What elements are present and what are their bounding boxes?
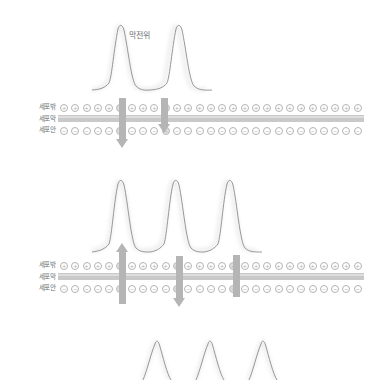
ion-charge-sign: + bbox=[107, 105, 111, 110]
ion-charge-sign: + bbox=[164, 263, 168, 268]
ion-charge-sign: + bbox=[265, 263, 269, 268]
ion-charge-sign: + bbox=[84, 263, 88, 268]
ion-negative: − bbox=[162, 285, 170, 293]
ion-charge-sign: − bbox=[344, 128, 348, 133]
ion-charge-sign: + bbox=[141, 263, 145, 268]
ion-charge-sign: − bbox=[344, 286, 348, 291]
ion-charge-sign: − bbox=[164, 286, 168, 291]
ion-charge-sign: + bbox=[73, 105, 77, 110]
ion-charge-sign: + bbox=[243, 263, 247, 268]
membrane-bar-1 bbox=[58, 115, 364, 122]
ion-charge-sign: + bbox=[175, 105, 179, 110]
ion-negative: − bbox=[354, 127, 362, 135]
ion-charge-sign: − bbox=[220, 128, 224, 133]
ion-charge-sign: − bbox=[107, 286, 111, 291]
ion-charge-sign: + bbox=[356, 105, 360, 110]
ion-charge-sign: − bbox=[310, 286, 314, 291]
ion-charge-sign: + bbox=[209, 105, 213, 110]
ion-negative: − bbox=[60, 127, 68, 135]
ion-charge-sign: − bbox=[322, 286, 326, 291]
ion-charge-sign: − bbox=[243, 286, 247, 291]
ion-charge-sign: + bbox=[62, 105, 66, 110]
ion-positive: + bbox=[263, 262, 271, 270]
ion-charge-sign: − bbox=[62, 128, 66, 133]
ion-charge-sign: − bbox=[277, 286, 281, 291]
ion-negative: − bbox=[320, 127, 328, 135]
ion-positive: + bbox=[60, 262, 68, 270]
ion-negative: − bbox=[94, 285, 102, 293]
ion-charge-sign: + bbox=[254, 263, 258, 268]
ion-negative: − bbox=[286, 285, 294, 293]
ion-positive: + bbox=[128, 104, 136, 112]
ion-charge-sign: + bbox=[197, 263, 201, 268]
ion-negative: − bbox=[241, 127, 249, 135]
ion-positive: + bbox=[342, 104, 350, 112]
page-title: 막전위 bbox=[129, 29, 149, 40]
ion-row-outer-1: +++++++++++++++++++++++++++ bbox=[60, 102, 362, 113]
ion-negative: − bbox=[297, 127, 305, 135]
ion-charge-sign: − bbox=[288, 128, 292, 133]
ion-positive: + bbox=[71, 262, 79, 270]
ion-charge-sign: − bbox=[220, 286, 224, 291]
row-labels-2: 세포밖 세포막 세포안 bbox=[22, 259, 56, 299]
ion-positive: + bbox=[309, 262, 317, 270]
ion-negative: − bbox=[150, 285, 158, 293]
row-label-membrane: 세포막 bbox=[22, 274, 56, 281]
ion-charge-sign: + bbox=[243, 105, 247, 110]
ion-negative: − bbox=[309, 285, 317, 293]
ion-positive: + bbox=[60, 104, 68, 112]
row-label-intracellular: 세포안 bbox=[22, 127, 56, 134]
ion-negative: − bbox=[60, 285, 68, 293]
ion-positive: + bbox=[331, 104, 339, 112]
ion-charge-sign: + bbox=[333, 105, 337, 110]
ion-negative: − bbox=[196, 285, 204, 293]
ion-charge-sign: − bbox=[322, 128, 326, 133]
ion-charge-sign: + bbox=[322, 263, 326, 268]
ion-charge-sign: + bbox=[84, 105, 88, 110]
ion-charge-sign: + bbox=[62, 263, 66, 268]
ion-charge-sign: − bbox=[209, 128, 213, 133]
ion-positive: + bbox=[196, 262, 204, 270]
ion-charge-sign: − bbox=[130, 128, 134, 133]
ion-charge-sign: + bbox=[288, 105, 292, 110]
membrane-block-1: 세포밖 세포막 세포안 +++++++++++++++++++++++++++ … bbox=[0, 101, 373, 141]
ion-charge-sign: − bbox=[254, 286, 258, 291]
ion-charge-sign: − bbox=[84, 286, 88, 291]
ion-positive: + bbox=[320, 262, 328, 270]
ion-charge-sign: + bbox=[107, 263, 111, 268]
ion-negative: − bbox=[207, 285, 215, 293]
ion-positive: + bbox=[83, 262, 91, 270]
ion-positive: + bbox=[139, 262, 147, 270]
ion-charge-sign: − bbox=[186, 128, 190, 133]
ion-charge-sign: + bbox=[141, 105, 145, 110]
ion-charge-sign: − bbox=[265, 128, 269, 133]
ion-negative: − bbox=[71, 127, 79, 135]
ion-positive: + bbox=[139, 104, 147, 112]
ion-positive: + bbox=[241, 262, 249, 270]
ion-positive: + bbox=[229, 104, 237, 112]
ion-positive: + bbox=[354, 262, 362, 270]
membrane-potential-trace-1 bbox=[90, 18, 220, 94]
ion-row-inner-2: −−−−−−−−−−−−−−−−−−−−−−−−−−− bbox=[60, 283, 362, 294]
ion-positive: + bbox=[263, 104, 271, 112]
ion-charge-sign: + bbox=[277, 105, 281, 110]
ion-charge-sign: + bbox=[310, 263, 314, 268]
ion-negative: − bbox=[184, 285, 192, 293]
ion-charge-sign: − bbox=[254, 128, 258, 133]
ion-negative: − bbox=[331, 285, 339, 293]
ion-positive: + bbox=[162, 262, 170, 270]
ion-charge-sign: + bbox=[220, 105, 224, 110]
ion-charge-sign: − bbox=[152, 128, 156, 133]
ion-positive: + bbox=[196, 104, 204, 112]
ion-negative: − bbox=[139, 127, 147, 135]
ion-negative: − bbox=[297, 285, 305, 293]
ion-positive: + bbox=[342, 262, 350, 270]
row-labels-1: 세포밖 세포막 세포안 bbox=[22, 101, 56, 141]
ion-positive: + bbox=[150, 262, 158, 270]
ion-positive: + bbox=[105, 104, 113, 112]
ion-negative: − bbox=[128, 127, 136, 135]
ion-negative: − bbox=[342, 285, 350, 293]
ion-charge-sign: + bbox=[152, 263, 156, 268]
ion-charge-sign: + bbox=[73, 263, 77, 268]
ion-charge-sign: + bbox=[186, 105, 190, 110]
